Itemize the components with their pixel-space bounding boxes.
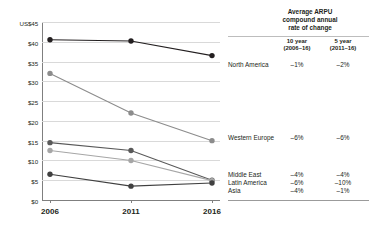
- legend-value-asia-5yr: –1%: [320, 187, 366, 194]
- y-tick-label-30: $30: [28, 79, 38, 86]
- data-point-asia-2016: [209, 180, 214, 185]
- legend-bottom-rule: [228, 200, 369, 201]
- legend-label-north-america: North America: [228, 61, 274, 68]
- legend-panel: Average ARPU compound annual rate of cha…: [228, 6, 369, 206]
- y-tick-label-15: $15: [28, 138, 38, 145]
- data-point-middle-east-2006: [47, 140, 52, 145]
- data-point-western-europe-2011: [128, 110, 133, 115]
- y-tick-label-35: $35: [28, 59, 38, 66]
- y-tick-label-45: US$45: [20, 20, 38, 27]
- y-tick-label-25: $25: [28, 99, 38, 106]
- legend-value-north-america-5yr: –2%: [320, 61, 366, 68]
- data-point-asia-2011: [128, 183, 133, 188]
- series-layer: [42, 22, 220, 200]
- x-tickmark-2011: [131, 200, 132, 203]
- y-tick-label-0: $0: [31, 198, 38, 205]
- legend-column-5-year: 5 year (2011–16): [320, 38, 366, 53]
- data-point-north-america-2016: [209, 53, 214, 58]
- series-line-latin-america: [50, 151, 212, 181]
- legend-row-asia: Asia –4% –1%: [228, 186, 369, 195]
- legend-column-10-year: 10 year (2006–16): [274, 38, 320, 53]
- legend-column-headers: 10 year (2006–16) 5 year (2011–16): [274, 38, 366, 53]
- legend-value-middle-east-10yr: –4%: [274, 171, 320, 178]
- data-point-north-america-2011: [128, 38, 133, 43]
- data-point-latin-america-2011: [128, 158, 133, 163]
- legend-row-western-europe: Western Europe –6% –6%: [228, 133, 369, 142]
- y-tick-label-10: $10: [28, 158, 38, 165]
- x-tickmark-2016: [212, 200, 213, 203]
- x-tick-label-2016: 2016: [203, 207, 221, 216]
- legend-heading: Average ARPU compound annual rate of cha…: [254, 8, 366, 33]
- data-point-middle-east-2011: [128, 148, 133, 153]
- legend-column-5-year-title: 5 year: [320, 38, 366, 45]
- x-tickmark-2006: [50, 200, 51, 203]
- legend-label-middle-east: Middle East: [228, 171, 274, 178]
- legend-label-latin-america: Latin America: [228, 179, 274, 186]
- legend-label-asia: Asia: [228, 187, 274, 194]
- legend-header-rule: [228, 36, 369, 37]
- data-point-western-europe-2006: [47, 71, 52, 76]
- y-tick-label-5: $5: [31, 178, 38, 185]
- legend-column-10-year-title: 10 year: [274, 38, 320, 45]
- data-point-western-europe-2016: [209, 138, 214, 143]
- series-line-western-europe: [50, 73, 212, 140]
- legend-value-middle-east-5yr: –4%: [320, 171, 366, 178]
- legend-label-western-europe: Western Europe: [228, 134, 274, 141]
- legend-value-north-america-10yr: –1%: [274, 61, 320, 68]
- legend-heading-line-1: Average ARPU: [254, 8, 366, 16]
- legend-heading-line-3: rate of change: [254, 24, 366, 32]
- legend-value-latin-america-10yr: –6%: [274, 179, 320, 186]
- legend-row-north-america: North America –1% –2%: [228, 60, 369, 69]
- arpu-line-chart: US$45 $40 $35 $30 $25 $20 $15 $10 $5 $0: [0, 0, 371, 226]
- legend-column-5-year-period: (2011–16): [320, 45, 366, 52]
- y-tick-label-20: $20: [28, 118, 38, 125]
- x-tick-label-2011: 2011: [122, 207, 139, 216]
- legend-value-western-europe-10yr: –6%: [274, 134, 320, 141]
- data-point-latin-america-2006: [47, 148, 52, 153]
- data-point-north-america-2006: [47, 37, 52, 42]
- legend-column-10-year-period: (2006–16): [274, 45, 320, 52]
- legend-value-asia-10yr: –4%: [274, 187, 320, 194]
- data-point-asia-2006: [47, 172, 52, 177]
- legend-value-western-europe-5yr: –6%: [320, 134, 366, 141]
- y-tick-label-40: $40: [28, 39, 38, 46]
- legend-value-latin-america-5yr: –10%: [320, 179, 366, 186]
- plot-area: US$45 $40 $35 $30 $25 $20 $15 $10 $5 $0: [42, 22, 220, 200]
- x-tick-label-2006: 2006: [41, 207, 59, 216]
- legend-heading-line-2: compound annual: [254, 16, 366, 24]
